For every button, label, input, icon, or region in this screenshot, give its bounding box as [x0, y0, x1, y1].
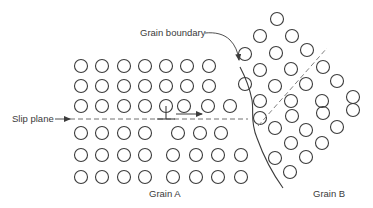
grain-b-atom — [285, 95, 298, 108]
grain-b-lattice — [239, 13, 360, 179]
grain-boundary-diagram: Grain boundary Slip plane Grain A Grain … — [0, 0, 373, 208]
grain-a-label: Grain A — [149, 188, 181, 199]
grain-a-atom — [75, 127, 88, 140]
grain-b-atom — [317, 107, 330, 120]
grain-b-atom — [254, 30, 267, 43]
grain-a-atom — [75, 60, 88, 73]
grain-b-atom — [270, 47, 283, 60]
grain-b-atom — [239, 48, 252, 61]
grain-a-atom — [212, 149, 225, 162]
grain-a-atom — [167, 149, 180, 162]
grain-a-atom — [96, 149, 109, 162]
grain-a-atom — [181, 80, 194, 93]
grain-boundary-label: Grain boundary — [140, 27, 206, 38]
grain-b-atom — [285, 137, 298, 150]
grain-b-label: Grain B — [313, 188, 345, 199]
grain-a-atom — [212, 171, 225, 184]
grain-b-atom — [331, 121, 344, 134]
grain-a-atom — [167, 171, 180, 184]
grain-a-atom — [139, 149, 152, 162]
grain-a-atom — [160, 80, 173, 93]
grain-a-atom — [160, 60, 173, 73]
grain-a-atom — [75, 171, 88, 184]
grain-a-atom — [118, 60, 131, 73]
grain-b-atom — [285, 63, 298, 76]
grain-a-atom — [235, 149, 248, 162]
grain-a-atom — [118, 80, 131, 93]
grain-boundary-leader-arrow-icon — [205, 33, 239, 60]
grain-a-atom — [190, 171, 203, 184]
grain-a-atom — [96, 100, 109, 113]
grain-a-atom — [96, 80, 109, 93]
grain-b-atom — [331, 75, 344, 88]
grain-a-atom — [118, 149, 131, 162]
grain-a-atom — [202, 100, 215, 113]
grain-a-atom — [118, 127, 131, 140]
grain-b-atom — [301, 44, 314, 57]
grain-a-atom — [139, 127, 152, 140]
grain-a-atom — [203, 60, 216, 73]
grain-a-atom — [172, 127, 185, 140]
slip-plane-label: Slip plane — [12, 113, 54, 124]
grain-b-atom — [347, 104, 360, 117]
grain-a-atom — [178, 100, 191, 113]
grain-a-atom — [235, 171, 248, 184]
grain-a-lattice — [75, 60, 248, 184]
grain-b-atom — [284, 166, 297, 179]
grain-a-atom — [75, 80, 88, 93]
grain-b-atom — [286, 30, 299, 43]
grain-b-atom — [254, 64, 267, 77]
grain-a-atom — [139, 80, 152, 93]
grain-b-atom — [300, 124, 313, 137]
grain-a-atom — [181, 60, 194, 73]
grain-a-atom — [224, 100, 237, 113]
grain-b-atom — [300, 78, 313, 91]
grain-a-atom — [215, 127, 228, 140]
grain-a-atom — [96, 127, 109, 140]
grain-a-atom — [203, 80, 216, 93]
grain-b-atom — [286, 110, 299, 123]
grain-b-atom — [316, 137, 329, 150]
grain-b-atom — [269, 80, 282, 93]
grain-b-atom — [316, 95, 329, 108]
grain-boundary-line — [240, 67, 283, 188]
grain-a-atom — [96, 60, 109, 73]
grain-a-atom — [194, 127, 207, 140]
grain-b-atom — [271, 13, 284, 26]
grain-a-atom — [75, 149, 88, 162]
grain-b-atom — [269, 152, 282, 165]
grain-a-atom — [139, 171, 152, 184]
grain-b-atom — [300, 151, 313, 164]
grain-a-atom — [96, 171, 109, 184]
grain-b-atom — [347, 91, 360, 104]
grain-a-atom — [118, 100, 131, 113]
grain-a-atom — [118, 171, 131, 184]
grain-a-atom — [75, 100, 88, 113]
grain-b-atom — [269, 122, 282, 135]
grain-a-atom — [139, 60, 152, 73]
grain-a-atom — [190, 149, 203, 162]
grain-b-atom — [254, 95, 267, 108]
grain-a-atom — [139, 100, 152, 113]
grain-b-atom — [317, 61, 330, 74]
